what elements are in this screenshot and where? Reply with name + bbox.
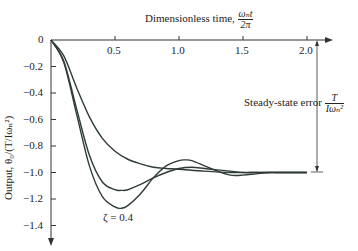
y-tick-label: −0.8	[23, 139, 43, 151]
x-axis-title-fraction: ωₙt 2π	[238, 9, 254, 30]
y-axis-title: Output, θ₀/(T/Iωₙ²)	[2, 116, 15, 200]
x-tick-label: 0.5	[107, 44, 121, 56]
steady-state-error-annotation: Steady-state error T Iωₙ²	[244, 93, 344, 114]
curve-0.4	[51, 40, 307, 208]
y-axis-arrow-icon	[48, 238, 54, 246]
y-ticks	[51, 67, 56, 226]
x-tick-label: 1.5	[235, 44, 249, 56]
y-tick-label: 0	[38, 33, 44, 45]
response-curves	[51, 40, 307, 208]
curve-label: ζ = 0.4	[103, 211, 133, 223]
y-tick-label: −0.2	[23, 60, 43, 72]
steady-state-error-fraction: T Iωₙ²	[325, 93, 344, 114]
x-axis-title: Dimensionless time, ωₙt 2π	[145, 9, 253, 30]
x-tick-label: 1.0	[171, 44, 185, 56]
y-tick-label: −1.4	[23, 219, 43, 231]
x-ticks	[115, 36, 307, 40]
x-tick-label: 2.0	[299, 44, 313, 56]
arrow-up-icon	[315, 40, 319, 46]
arrow-down-icon	[315, 166, 319, 172]
x-axis-arrow-icon	[325, 37, 333, 43]
y-tick-label: −0.6	[23, 113, 43, 125]
chart-plot	[0, 0, 358, 251]
y-tick-label: −1.0	[23, 166, 43, 178]
y-tick-label: −0.4	[23, 86, 43, 98]
y-tick-label: −1.2	[23, 192, 43, 204]
